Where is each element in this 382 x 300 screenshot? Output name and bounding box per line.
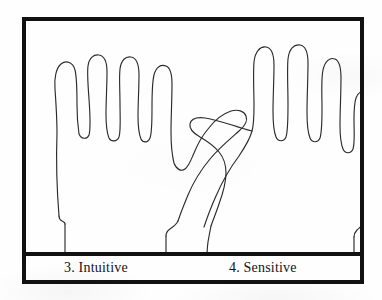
hands-illustration [26, 21, 360, 253]
left-hand-outline [55, 55, 247, 253]
right-hand-thumb-path [190, 118, 252, 226]
caption-left-intuitive: 3. Intuitive [64, 261, 128, 275]
caption-right-sensitive: 4. Sensitive [229, 261, 297, 275]
right-hand-path-upper [204, 45, 360, 227]
right-hand-wrist-notch-right [354, 223, 360, 237]
right-hand-wrist-line-left [207, 226, 211, 253]
left-hand-wrist-notch-left [59, 216, 65, 224]
right-hand-outline [190, 45, 360, 253]
caption-band: 3. Intuitive 4. Sensitive [26, 256, 360, 280]
figure-root: 3. Intuitive 4. Sensitive [0, 0, 382, 300]
left-hand-wrist-notch-right [166, 221, 178, 236]
hand-drawing-area [26, 21, 360, 253]
left-hand-path [55, 55, 247, 221]
